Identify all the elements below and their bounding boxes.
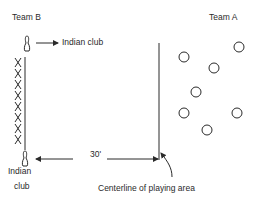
team-b-players — [15, 58, 21, 144]
diagram-canvas — [0, 0, 259, 209]
indian-club-icon-bottom — [22, 151, 27, 166]
indian-club-icon-top — [24, 36, 29, 51]
team-a-players — [179, 42, 244, 135]
centerline-pointer — [161, 153, 172, 177]
